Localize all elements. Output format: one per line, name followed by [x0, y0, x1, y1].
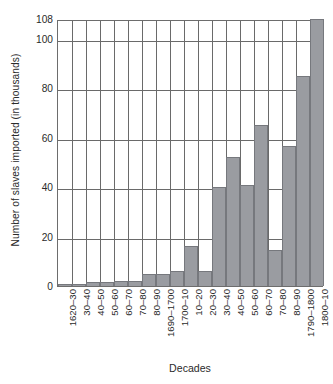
- y-tick-label: 20: [13, 233, 53, 243]
- x-tick-label: 60–70: [124, 289, 134, 316]
- bar: [100, 282, 114, 286]
- x-tick-label: 1800–10: [320, 289, 330, 326]
- bar: [114, 281, 128, 286]
- bar: [156, 274, 170, 286]
- bar-series: [58, 21, 322, 286]
- y-tick-label: 0: [13, 282, 53, 292]
- chart-figure: Number of slaves imported (in thousands)…: [0, 0, 333, 384]
- y-tick-label: 40: [13, 183, 53, 193]
- x-tick-label: 80–90: [292, 289, 302, 316]
- bar: [198, 271, 212, 286]
- bar: [282, 146, 296, 286]
- x-tick-label: 70–80: [138, 289, 148, 316]
- x-tick-label: 1690–1700: [166, 289, 176, 337]
- x-tick-label: 70–80: [278, 289, 288, 316]
- y-tick-label: 108: [13, 15, 53, 25]
- bar: [142, 274, 156, 286]
- y-tick-label: 80: [13, 84, 53, 94]
- bar: [72, 284, 86, 286]
- bar: [240, 185, 254, 286]
- x-tick-label: 50–60: [110, 289, 120, 316]
- x-axis-tick-labels: 1620–3030–4040–5050–6060–7070–8080–90169…: [57, 289, 323, 359]
- x-tick-label: 1700–10: [180, 289, 190, 326]
- x-tick-label: 40–50: [96, 289, 106, 316]
- bar: [268, 250, 282, 286]
- x-tick-label: 10–20: [194, 289, 204, 316]
- x-axis-title: Decades: [57, 362, 323, 374]
- y-tick-label: 60: [13, 134, 53, 144]
- bar: [184, 246, 198, 286]
- bar: [128, 281, 142, 286]
- x-tick-label: 30–40: [222, 289, 232, 316]
- bar: [170, 271, 184, 286]
- x-tick-label: 60–70: [264, 289, 274, 316]
- bar: [226, 157, 240, 286]
- bar: [310, 19, 324, 286]
- bar: [212, 187, 226, 286]
- bar: [296, 76, 310, 286]
- y-tick-label: 100: [13, 35, 53, 45]
- x-tick-label: 1620–30: [68, 289, 78, 326]
- x-tick-label: 80–90: [152, 289, 162, 316]
- x-tick-label: 1790–1800: [306, 289, 316, 337]
- bar: [86, 282, 100, 286]
- x-tick-label: 20–30: [208, 289, 218, 316]
- y-axis-tick-labels: 020406080100108: [9, 0, 53, 384]
- x-tick-label: 50–60: [250, 289, 260, 316]
- bar: [254, 125, 268, 286]
- bar: [58, 284, 72, 286]
- plot-area: [57, 20, 323, 287]
- x-tick-label: 30–40: [82, 289, 92, 316]
- x-tick-label: 40–50: [236, 289, 246, 316]
